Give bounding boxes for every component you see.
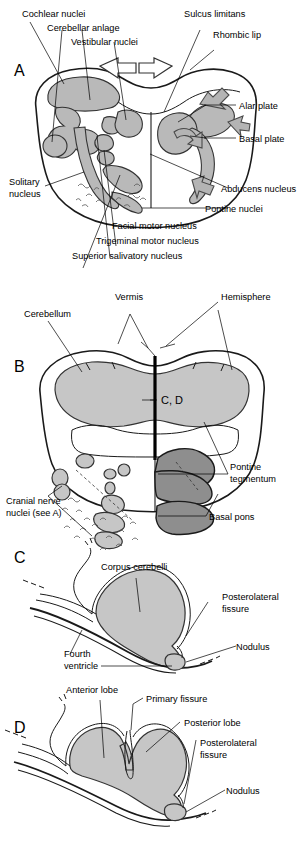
figure-canvas: A [0, 0, 308, 855]
label-basal-pons: Basal pons [209, 512, 255, 522]
label-cochlear-nuclei: Cochlear nuclei [22, 9, 85, 19]
panel-c-letter: C [14, 549, 26, 566]
panel-a-arrow-right-hollow [139, 58, 172, 78]
panel-d-letter: D [14, 719, 26, 736]
label-fourth-ventricle-1: Fourth [64, 649, 91, 659]
label-superior-salivatory-nucleus: Superior salivatory nucleus [72, 251, 183, 261]
label-alar-plate: Alar plate [239, 101, 278, 111]
anatomy-figure: A [0, 0, 308, 855]
panel-a: A [9, 9, 296, 268]
label-posterolateral-fissure-d-1: Posterolateral [200, 738, 257, 748]
panel-a-cochlear-nucleus-blob [43, 135, 67, 157]
panel-a-letter: A [14, 62, 25, 79]
panel-d-stalk-dashes [59, 694, 66, 701]
label-sulcus-limitans: Sulcus limitans [184, 9, 246, 19]
label-cranial-nerve-nuclei-2: nuclei (see A) [6, 508, 62, 518]
label-trigeminal-motor-nucleus: Trigeminal motor nucleus [96, 236, 199, 246]
panel-d-ventricle-roof2 [18, 752, 68, 774]
label-posterolateral-fissure-c-1: Posterolateral [222, 592, 279, 602]
label-pontine-nuclei: Pontine nuclei [205, 204, 263, 214]
label-vestibular-nuclei: Vestibular nuclei [71, 37, 138, 47]
label-nodulus-c: Nodulus [236, 642, 270, 652]
label-hemisphere: Hemisphere [221, 292, 271, 302]
label-pontine-tegmentum-1: Pontine [230, 462, 261, 472]
panel-c: C Corpus cerebelli Posterola [14, 538, 279, 673]
label-cerebellar-anlage: Cerebellar anlage [47, 23, 120, 33]
panel-b-letter: B [14, 358, 25, 375]
panel-c-leading-dashes [23, 580, 44, 588]
label-posterior-lobe: Posterior lobe [184, 718, 241, 728]
panel-b: B [6, 292, 276, 550]
label-posterolateral-fissure-d-2: fissure [200, 750, 227, 760]
panel-d-cerebellum-body [70, 727, 187, 816]
label-fourth-ventricle-2: ventricle [64, 661, 98, 671]
panel-c-corpus-cerebelli [96, 570, 185, 668]
label-vermis: Vermis [115, 292, 143, 302]
label-solitary-nucleus-1: Solitary [9, 177, 40, 187]
label-cerebellum: Cerebellum [24, 309, 71, 319]
label-pontine-tegmentum-2: tegmentum [230, 474, 276, 484]
label-facial-motor-nucleus: Facial motor nucleus [112, 221, 197, 231]
label-primary-fissure: Primary fissure [146, 694, 207, 704]
panel-d: D Anterior lobe [5, 685, 260, 826]
label-rhombic-lip: Rhombic lip [213, 30, 261, 40]
label-corpus-cerebelli: Corpus cerebelli [101, 562, 167, 572]
label-plane-c-d: C, D [161, 394, 183, 406]
label-posterolateral-fissure-c-2: fissure [222, 604, 249, 614]
label-solitary-nucleus-2: nucleus [9, 189, 41, 199]
panel-c-stalk-dashes [85, 538, 92, 545]
label-basal-plate: Basal plate [239, 134, 284, 144]
panel-d-dorsal-stalk [50, 704, 66, 766]
label-abducens-nucleus: Abducens nucleus [221, 184, 296, 194]
label-cranial-nerve-nuclei-1: Cranial nerve [6, 496, 61, 506]
label-anterior-lobe: Anterior lobe [66, 685, 118, 695]
label-nodulus-d: Nodulus [226, 786, 260, 796]
panel-a-solitary-nucleus-blob [115, 110, 142, 137]
panel-d-trailing-dashes [196, 810, 216, 818]
